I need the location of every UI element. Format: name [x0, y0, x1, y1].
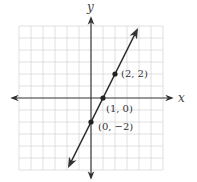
- point-1-0: [100, 95, 105, 100]
- point-label-0-neg2: (0, −2): [98, 121, 133, 132]
- point-label-2-2: (2, 2): [121, 68, 148, 79]
- point-label-1-0: (1, 0): [106, 103, 133, 114]
- x-axis-label: x: [178, 91, 185, 105]
- point-0-neg2: [88, 119, 93, 124]
- point-2-2: [112, 71, 117, 76]
- coordinate-plane: x y (2, 2) (1, 0) (0, −2): [0, 0, 197, 182]
- y-axis-label: y: [86, 0, 94, 14]
